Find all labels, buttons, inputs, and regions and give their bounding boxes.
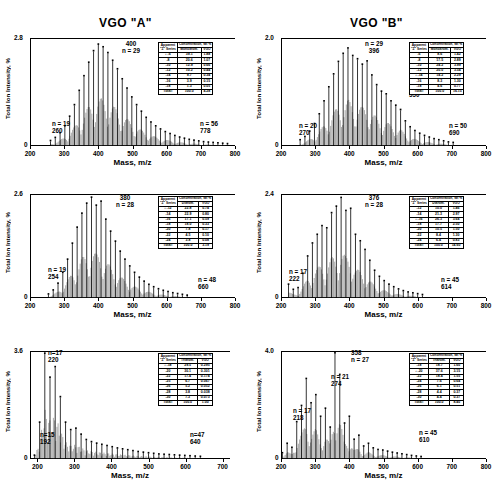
cell-total-vgo: 16.15 <box>451 89 464 94</box>
concentration-table: Apparent"Z" SeriesConcentration, Wt %Tri… <box>158 353 213 406</box>
x-axis-tick <box>30 298 31 301</box>
cell-total-label: Total: <box>159 243 178 248</box>
plot-area: 2.60Total Ion Intensity, %20030040050060… <box>30 194 235 324</box>
annotation-peak-max: 376n = 28 <box>365 194 383 208</box>
cell-total-vgo: 4.28 <box>201 89 213 94</box>
cell-total-vgo: 14.60 <box>448 243 463 248</box>
panel-vgo-a-diaromatic: 2.60Total Ion Intensity, %20030040050060… <box>0 164 251 321</box>
annotation-high-end: n = 56778 <box>200 120 218 134</box>
x-axis-tick <box>167 146 168 149</box>
annotation-secondary-peak: n = 21274 <box>331 373 349 387</box>
x-axis-tick-label: 200 <box>276 150 287 157</box>
x-axis-tick-label: 300 <box>59 150 70 157</box>
cell-total-label: Total: <box>410 89 429 94</box>
cell-total-type: 100.0 <box>428 400 449 405</box>
x-axis-tick <box>384 146 385 149</box>
column-title-vgo-b: VGO "B" <box>251 16 502 30</box>
annotation-low-end: n=15192 <box>40 431 55 445</box>
x-axis-tick-label: 800 <box>481 463 492 470</box>
x-axis-tick-label: 500 <box>378 302 389 309</box>
x-axis-tick <box>349 298 350 301</box>
x-axis-tick-label: 400 <box>344 463 355 470</box>
x-axis-tick <box>201 298 202 301</box>
plot-area: 2.80Total Ion Intensity, %20030040050060… <box>30 38 235 172</box>
concentration-table: Apparent"Z" SeriesConcentration, Wt %Mon… <box>409 42 464 95</box>
y-axis-label: Total Ion Intensity, % <box>255 58 262 119</box>
panel-vgo-b-triaromatic: 4.00Total Ion Intensity, %20030040050060… <box>251 321 502 492</box>
plot-area: 3.60Total Ion Intensity, %20030040050060… <box>30 351 230 485</box>
x-axis-tick <box>384 459 385 462</box>
table-total-row: Total:100.01.00 <box>159 400 213 405</box>
x-axis-tick-label: 700 <box>195 150 206 157</box>
y-axis-zero-label: 0 <box>275 141 279 148</box>
x-axis-tick <box>452 298 453 301</box>
cell-total-label: Total: <box>159 89 178 94</box>
table-header-z-series: Apparent"Z" Series <box>159 354 178 364</box>
x-axis-label: Mass, m/z <box>281 310 486 319</box>
x-axis-tick-label: 200 <box>25 302 36 309</box>
cell-total-type: 100.0 <box>428 243 448 248</box>
x-axis-tick <box>349 459 350 462</box>
annotation-low-end: n = 17218 <box>293 407 311 421</box>
row-marker-icon: ▪ <box>415 217 416 221</box>
concentration-table: Apparent"Z" SeriesConcentration, Wt %Dia… <box>409 196 464 249</box>
x-axis-tick-label: 500 <box>143 463 154 470</box>
x-axis-tick <box>133 146 134 149</box>
x-axis-label: Mass, m/z <box>30 471 230 480</box>
x-axis-tick <box>30 146 31 149</box>
table-total-row: Total:100.016.15 <box>410 89 464 94</box>
panel-vgo-b-monoaromatic: VGO "B" 2.00Total Ion Intensity, %200300… <box>251 0 502 164</box>
figure-grid: VGO "A" 2.80Total Ion Intensity, %200300… <box>0 0 502 492</box>
x-axis-tick-label: 600 <box>161 150 172 157</box>
x-axis-tick <box>98 298 99 301</box>
cell-total-label: Total: <box>410 243 429 248</box>
x-axis-tick <box>133 298 134 301</box>
x-axis-tick <box>98 146 99 149</box>
x-axis-tick <box>281 146 282 149</box>
annotation-high-end: n = 45610 <box>419 429 437 443</box>
row-marker-icon: ▪ <box>415 73 416 77</box>
cell-total-type: 100.0 <box>177 400 197 405</box>
x-axis-tick <box>235 298 236 301</box>
x-axis-tick <box>418 298 419 301</box>
y-axis-max-label: 2.8 <box>14 34 23 41</box>
table-total-row: Total:100.08.40 <box>410 400 464 405</box>
x-axis-tick-label: 300 <box>310 150 321 157</box>
plot-area: 2.00Total Ion Intensity, %20030040050060… <box>281 38 486 172</box>
panel-vgo-a-monoaromatic: VGO "A" 2.80Total Ion Intensity, %200300… <box>0 0 251 164</box>
annotation-peak-max: 358n = 27 <box>351 349 369 363</box>
x-axis-tick <box>235 146 236 149</box>
table-header-z-series: Apparent"Z" Series <box>410 197 429 207</box>
x-axis-tick-label: 800 <box>230 302 241 309</box>
y-axis-max-label: 2.6 <box>14 190 23 197</box>
x-axis-tick <box>64 146 65 149</box>
table-header-z-series: Apparent"Z" Series <box>410 354 429 364</box>
x-axis-tick-label: 400 <box>344 302 355 309</box>
annotation-high-end: n = 45614 <box>441 276 459 290</box>
table-total-row: Total:100.04.28 <box>159 89 213 94</box>
x-axis-tick <box>418 146 419 149</box>
y-axis-label: Total Ion Intensity, % <box>4 371 11 432</box>
y-axis-max-label: 4.0 <box>265 347 274 354</box>
y-axis-label: Total Ion Intensity, % <box>255 212 262 273</box>
annotation-high-end: n = 48660 <box>198 276 216 290</box>
y-axis-zero-label: 0 <box>24 293 28 300</box>
x-axis-tick-label: 200 <box>276 463 287 470</box>
x-axis-tick <box>418 459 419 462</box>
table-total-row: Total:100.014.60 <box>410 243 464 248</box>
annotation-high-end: n=47640 <box>190 431 205 445</box>
x-axis-tick <box>149 459 150 462</box>
x-axis-tick <box>111 459 112 462</box>
x-axis-tick-label: 400 <box>93 302 104 309</box>
x-axis-tick <box>486 459 487 462</box>
y-axis-label: Total Ion Intensity, % <box>4 58 11 119</box>
x-axis-tick <box>281 298 282 301</box>
x-axis-tick-label: 500 <box>127 302 138 309</box>
x-axis-tick-label: 500 <box>378 150 389 157</box>
x-axis-tick-label: 800 <box>230 150 241 157</box>
y-axis-zero-label: 0 <box>275 454 279 461</box>
cell-total-vgo: 1.00 <box>198 400 213 405</box>
x-axis-tick-label: 600 <box>412 463 423 470</box>
annotation-low-end: n = 17222 <box>289 268 307 282</box>
table-total-row: Total:100.03.19 <box>159 243 213 248</box>
